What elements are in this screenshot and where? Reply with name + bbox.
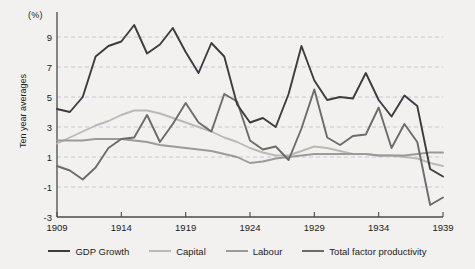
- plot-area: [0, 0, 475, 269]
- legend-swatch: [226, 250, 248, 252]
- legend-label: Total factor productivity: [329, 246, 426, 257]
- data-series-layer: [57, 25, 443, 205]
- legend-item-gdp-growth[interactable]: GDP Growth: [48, 246, 129, 257]
- legend-item-labour[interactable]: Labour: [226, 246, 283, 257]
- legend-swatch: [48, 250, 70, 252]
- legend-label: GDP Growth: [75, 246, 129, 257]
- legend-item-total-factor-productivity[interactable]: Total factor productivity: [302, 246, 426, 257]
- legend-item-capital[interactable]: Capital: [149, 246, 206, 257]
- legend-label: Capital: [176, 246, 206, 257]
- chart-legend: GDP GrowthCapitalLabourTotal factor prod…: [0, 243, 475, 259]
- legend-swatch: [149, 250, 171, 252]
- x-axis-ticks: [57, 212, 443, 217]
- series-line-gdp-growth: [57, 25, 443, 177]
- legend-label: Labour: [253, 246, 283, 257]
- gridlines: [57, 37, 443, 187]
- chart-figure: (%) Ten year averages 97531-1-3 19091914…: [0, 0, 475, 269]
- legend-swatch: [302, 250, 324, 252]
